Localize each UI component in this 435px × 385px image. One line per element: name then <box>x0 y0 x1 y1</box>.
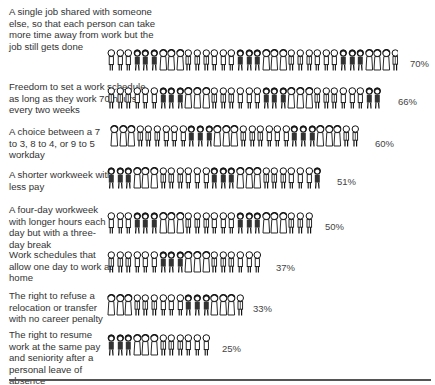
person-figure-icon <box>270 211 279 235</box>
row-label: A shorter workweek with less pay <box>9 169 119 192</box>
person-figure-icon <box>270 48 279 72</box>
person-figure-icon <box>193 333 202 357</box>
person-figure-icon <box>282 124 291 148</box>
row-label: The right to resume work at the same pay… <box>9 329 107 385</box>
person-figure-icon <box>253 250 262 274</box>
person-figure-icon <box>339 86 348 110</box>
person-figure-icon <box>176 48 185 72</box>
person-figure-icon <box>124 48 133 72</box>
person-figure-icon <box>107 333 116 357</box>
person-figure-icon <box>253 166 262 190</box>
person-figure-icon <box>348 86 357 110</box>
person-figure-icon <box>193 293 202 317</box>
row-label: The right to refuse a relocation or tran… <box>9 290 103 325</box>
person-figure-icon <box>219 293 228 317</box>
person-figure-icon <box>179 124 188 148</box>
person-figure-icon <box>124 250 133 274</box>
person-figure-icon <box>176 166 185 190</box>
person-figure-icon <box>219 86 228 110</box>
person-figure-icon <box>124 333 133 357</box>
person-figure-icon <box>184 86 193 110</box>
value-label: 37% <box>276 262 295 273</box>
person-figure-icon <box>167 211 176 235</box>
person-figure-icon <box>308 124 317 148</box>
person-figure-icon <box>262 211 271 235</box>
person-figure-icon <box>299 124 308 148</box>
value-label: 33% <box>253 303 272 314</box>
person-figure-icon <box>133 48 142 72</box>
person-figure-icon <box>356 48 365 72</box>
person-figure-icon <box>279 211 288 235</box>
value-label: 51% <box>337 176 356 187</box>
person-figure-icon <box>167 250 176 274</box>
person-figure-icon <box>227 211 236 235</box>
person-figure-icon <box>167 293 176 317</box>
person-figure-icon <box>136 124 145 148</box>
person-figure-icon <box>262 166 271 190</box>
person-figure-icon <box>248 124 257 148</box>
person-figure-icon <box>202 86 211 110</box>
person-figure-icon <box>210 211 219 235</box>
person-figure-icon <box>116 166 125 190</box>
person-figure-icon <box>279 48 288 72</box>
person-figure-icon <box>325 124 334 148</box>
person-figure-icon <box>245 48 254 72</box>
person-figure-icon <box>184 166 193 190</box>
person-figure-icon <box>356 86 365 110</box>
person-figure-icon <box>333 124 342 148</box>
person-figure-icon <box>245 250 254 274</box>
person-figure-icon <box>227 293 236 317</box>
person-figure-icon <box>210 48 219 72</box>
person-figure-icon <box>373 86 382 110</box>
person-figure-icon <box>253 48 262 72</box>
person-figure-icon <box>124 166 133 190</box>
person-figure-icon <box>202 166 211 190</box>
person-figure-icon <box>167 48 176 72</box>
person-figure-icon <box>176 86 185 110</box>
person-figure-icon <box>305 48 314 72</box>
person-figure-icon <box>159 86 168 110</box>
person-figure-icon <box>184 211 193 235</box>
person-figure-icon <box>116 86 125 110</box>
person-figure-icon <box>382 48 391 72</box>
person-figure-icon <box>391 48 398 72</box>
person-figure-icon <box>262 86 271 110</box>
row-label: A choice between a 7 to 3, 8 to 4, or 9 … <box>9 126 107 161</box>
person-figure-icon <box>322 48 331 72</box>
value-label: 50% <box>325 221 344 232</box>
person-figure-icon <box>236 48 245 72</box>
person-figure-icon <box>253 211 262 235</box>
person-figure-icon <box>187 124 196 148</box>
person-figure-icon <box>133 86 142 110</box>
person-figure-icon <box>193 48 202 72</box>
person-figure-icon <box>141 293 150 317</box>
person-figure-icon <box>270 166 279 190</box>
value-label: 66% <box>398 96 417 107</box>
person-figure-icon <box>124 211 133 235</box>
person-figure-icon <box>150 333 159 357</box>
person-figure-icon <box>141 211 150 235</box>
person-figure-icon <box>236 86 245 110</box>
person-figure-icon <box>202 250 211 274</box>
person-figure-icon <box>167 333 176 357</box>
person-figure-icon <box>279 86 288 110</box>
person-figure-icon <box>265 124 274 148</box>
person-figure-icon <box>193 86 202 110</box>
person-figure-icon <box>116 211 125 235</box>
person-figure-icon <box>351 124 360 148</box>
person-figure-icon <box>159 211 168 235</box>
person-figure-icon <box>222 124 231 148</box>
person-figure-icon <box>150 86 159 110</box>
person-figure-icon <box>153 124 162 148</box>
person-figure-icon <box>170 124 179 148</box>
person-figure-icon <box>219 48 228 72</box>
person-figure-icon <box>330 48 339 72</box>
figure-bar <box>107 211 313 235</box>
person-figure-icon <box>150 293 159 317</box>
person-figure-icon <box>287 86 296 110</box>
person-figure-icon <box>107 166 116 190</box>
person-figure-icon <box>162 124 171 148</box>
person-figure-icon <box>133 250 142 274</box>
person-figure-icon <box>245 166 254 190</box>
person-figure-icon <box>205 124 214 148</box>
